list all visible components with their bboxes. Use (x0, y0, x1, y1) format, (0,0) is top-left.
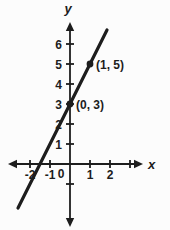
y-tick-label: 5 (55, 58, 62, 72)
data-point (87, 61, 94, 68)
origin-label: 0 (58, 167, 65, 181)
x-tick-label: 2 (107, 168, 114, 182)
coordinate-plane-figure: -2-1126543210(1, 5)(0, 3)yx (0, 0, 170, 230)
y-tick-label: 1 (55, 138, 62, 152)
x-axis-label: x (147, 157, 156, 172)
x-axis-left-arrowhead (8, 160, 17, 168)
x-axis-right-arrowhead (134, 160, 143, 168)
y-tick-label: 4 (55, 78, 62, 92)
y-tick-label: 6 (55, 38, 62, 52)
data-point (67, 101, 74, 108)
x-tick-label: -1 (45, 168, 56, 182)
line-graph-canvas: -2-1126543210(1, 5)(0, 3)yx (0, 0, 170, 230)
data-point-label: (1, 5) (96, 58, 124, 72)
y-axis-bottom-arrowhead (66, 218, 74, 227)
data-point-label: (0, 3) (76, 98, 104, 112)
y-tick-label: 3 (55, 98, 62, 112)
y-axis-top-arrowhead (66, 22, 74, 31)
x-tick-label: 1 (87, 168, 94, 182)
plotted-line (18, 30, 107, 208)
y-axis-label: y (63, 1, 72, 16)
